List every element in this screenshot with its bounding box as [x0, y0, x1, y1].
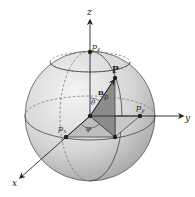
sphere-diagram: z y x P pz py px n p θ φ [0, 0, 195, 197]
z-axis-label: z [86, 7, 92, 17]
origin-point [88, 114, 92, 118]
point-P [113, 76, 117, 80]
x-axis-label: x [12, 178, 17, 188]
point-px [64, 135, 68, 139]
y-axis-label: y [184, 113, 191, 123]
point-py [138, 114, 142, 118]
point-foot [113, 135, 117, 139]
point-P-label: P [112, 65, 119, 75]
radius-label: p [104, 93, 109, 101]
phi-label: φ [86, 125, 91, 133]
pz-label: pz [92, 42, 100, 52]
